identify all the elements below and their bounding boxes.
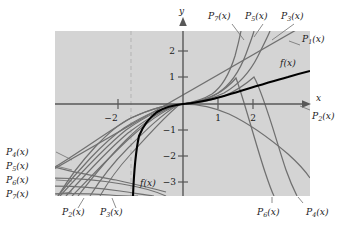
label-p6-bottom-suffix: (x) <box>267 206 280 217</box>
label-fx-right: f(x) <box>279 57 296 68</box>
label-p5-left-suffix: (x) <box>16 160 29 171</box>
label-p1-top-suffix: (x) <box>312 33 325 44</box>
label-p3-bottom-suffix: (x) <box>110 206 123 217</box>
label-p7-top-suffix: (x) <box>218 10 231 21</box>
label-fx-inside: f(x) <box>139 177 156 188</box>
label-p5-top-suffix: (x) <box>255 10 268 21</box>
label-p6-left-suffix: (x) <box>16 174 29 185</box>
label-p4-bottom-suffix: (x) <box>316 206 329 217</box>
figure-svg: −2 1 2 2 1 −1 −2 −3 x y P7(x) P5(x) <box>0 0 348 227</box>
taylor-polynomial-figure: −2 1 2 2 1 −1 −2 −3 x y P7(x) P5(x) <box>0 0 348 227</box>
label-p4-left-suffix: (x) <box>16 146 29 157</box>
x-axis-label: x <box>316 93 321 103</box>
y-tick-label-minus1: −1 <box>163 125 176 135</box>
label-fx-inside-suffix: (x) <box>143 177 156 188</box>
label-p2-right-suffix: (x) <box>322 110 335 121</box>
y-tick-label-minus3: −3 <box>163 177 177 187</box>
x-tick-label-2: 2 <box>250 113 256 123</box>
x-tick-label-minus2: −2 <box>104 113 117 123</box>
y-tick-label-minus2: −2 <box>163 151 176 161</box>
y-tick-label-1: 1 <box>169 72 175 82</box>
y-tick-label-2: 2 <box>169 46 175 56</box>
x-tick-label-1: 1 <box>215 113 221 123</box>
label-fx-right-suffix: (x) <box>283 57 296 68</box>
label-p3-top-suffix: (x) <box>291 10 304 21</box>
label-p2-bottom-suffix: (x) <box>72 206 85 217</box>
label-p7-left-suffix: (x) <box>16 188 29 199</box>
y-axis-label: y <box>178 6 185 16</box>
